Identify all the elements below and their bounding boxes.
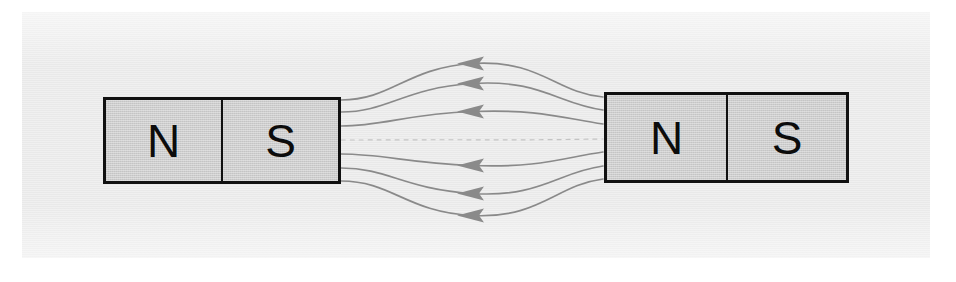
figure-canvas: N S N S: [0, 0, 956, 282]
field-line-4-neutral-axis: [341, 139, 603, 140]
magnet-left-north-pole-label: N: [147, 118, 180, 164]
magnet-left-south-pole-label: S: [265, 118, 296, 164]
magnet-right-north-pole: N: [607, 95, 728, 180]
magnet-right-north-pole-label: N: [650, 115, 683, 161]
magnet-right: N S: [604, 92, 849, 183]
magnet-right-south-pole-label: S: [772, 115, 803, 161]
magnet-left-south-pole: S: [223, 100, 338, 181]
magnet-left: N S: [103, 97, 341, 184]
magnet-right-south-pole: S: [728, 95, 846, 180]
magnet-left-north-pole: N: [106, 100, 223, 181]
